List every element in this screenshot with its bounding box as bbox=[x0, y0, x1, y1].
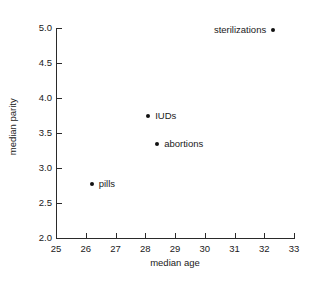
x-axis-tick-label: 25 bbox=[51, 244, 62, 254]
x-axis-line bbox=[56, 238, 295, 239]
data-point bbox=[271, 28, 275, 32]
y-axis-tick-label: 2.0 bbox=[39, 233, 52, 243]
data-point-label: sterilizations bbox=[214, 25, 266, 35]
x-axis-tick-label: 28 bbox=[140, 244, 151, 254]
y-axis-tick-label: 3.0 bbox=[39, 163, 52, 173]
x-axis-tick bbox=[145, 233, 146, 238]
y-axis-tick-label: 4.0 bbox=[39, 93, 52, 103]
plot-area: 2.02.53.03.54.04.55.0 252627282930313233… bbox=[56, 28, 294, 238]
x-axis-tick-label: 33 bbox=[289, 244, 300, 254]
data-point-label: pills bbox=[99, 179, 115, 189]
x-axis-tick bbox=[86, 233, 87, 238]
x-axis-tick bbox=[175, 233, 176, 238]
x-axis-tick-label: 29 bbox=[170, 244, 181, 254]
y-axis-tick bbox=[57, 203, 62, 204]
y-axis-tick bbox=[57, 238, 62, 239]
y-axis-tick-label: 5.0 bbox=[39, 23, 52, 33]
x-axis-tick bbox=[116, 233, 117, 238]
x-axis-title: median age bbox=[56, 258, 294, 268]
x-axis-tick-label: 27 bbox=[110, 244, 121, 254]
y-axis-tick-label: 2.5 bbox=[39, 198, 52, 208]
x-axis-tick bbox=[205, 233, 206, 238]
data-point-label: IUDs bbox=[155, 111, 176, 121]
y-axis-tick-label: 4.5 bbox=[39, 58, 52, 68]
x-axis-tick-label: 30 bbox=[199, 244, 210, 254]
x-axis-tick-label: 26 bbox=[80, 244, 91, 254]
y-axis-tick bbox=[57, 28, 62, 29]
x-axis-tick bbox=[294, 233, 295, 238]
x-axis-tick bbox=[235, 233, 236, 238]
x-axis-tick bbox=[264, 233, 265, 238]
y-axis-tick bbox=[57, 168, 62, 169]
data-point bbox=[146, 114, 150, 118]
y-axis-tick bbox=[57, 133, 62, 134]
y-axis-title: median parity bbox=[8, 92, 18, 162]
data-point bbox=[90, 182, 94, 186]
x-axis-tick-label: 32 bbox=[259, 244, 270, 254]
y-axis-tick bbox=[57, 63, 62, 64]
x-axis-tick-label: 31 bbox=[229, 244, 240, 254]
data-point-label: abortions bbox=[164, 139, 203, 149]
y-axis-tick bbox=[57, 98, 62, 99]
data-point bbox=[155, 142, 159, 146]
scatter-plot-figure: 2.02.53.03.54.04.55.0 252627282930313233… bbox=[0, 0, 310, 283]
y-axis-tick-label: 3.5 bbox=[39, 128, 52, 138]
